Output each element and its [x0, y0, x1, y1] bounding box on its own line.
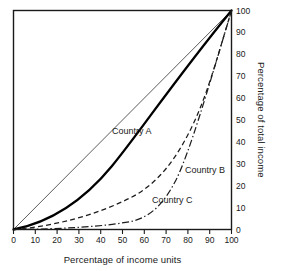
x-tick-40: 40	[96, 236, 105, 245]
y-tick-80: 80	[236, 50, 245, 59]
y-tick-0: 0	[236, 225, 241, 234]
x-tick-0: 0	[11, 236, 16, 245]
y-tick-40: 40	[236, 137, 245, 146]
x-tick-90: 90	[205, 236, 214, 245]
x-tick-50: 50	[118, 236, 127, 245]
x-tick-10: 10	[31, 236, 40, 245]
y-tick-70: 70	[236, 72, 245, 81]
x-tick-60: 60	[140, 236, 149, 245]
y-tick-20: 20	[236, 181, 245, 190]
y-tick-50: 50	[236, 116, 245, 125]
series-label-country-b: Country B	[185, 165, 225, 175]
x-tick-20: 20	[52, 236, 61, 245]
x-tick-100: 100	[224, 236, 238, 245]
x-tick-80: 80	[183, 236, 192, 245]
y-tick-30: 30	[236, 159, 245, 168]
y-tick-10: 10	[236, 203, 245, 212]
y-tick-60: 60	[236, 94, 245, 103]
y-axis-title: Percentage of total income	[255, 0, 268, 240]
series-label-country-c: Country C	[152, 195, 193, 205]
lorenz-curve-chart: 0 10 20 30 40 50 60 70 80 90 100 0 10 20…	[0, 0, 281, 271]
y-tick-90: 90	[236, 28, 245, 37]
x-axis-title: Percentage of income units	[0, 254, 245, 265]
series-label-country-a: Country A	[112, 126, 152, 136]
y-tick-100: 100	[236, 6, 250, 15]
x-tick-30: 30	[74, 236, 83, 245]
x-tick-70: 70	[161, 236, 170, 245]
